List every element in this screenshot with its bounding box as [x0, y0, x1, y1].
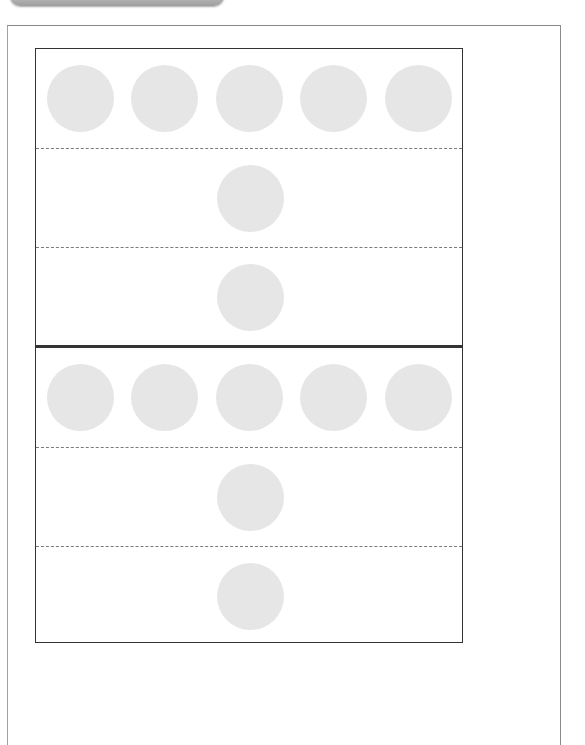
circle-icon — [217, 264, 284, 331]
circle-icon — [47, 65, 114, 132]
circle-icon — [217, 165, 284, 232]
circle-icon — [300, 65, 367, 132]
dot-card-2 — [35, 346, 463, 643]
card-1-row-1 — [36, 49, 462, 148]
circle-icon — [300, 364, 367, 431]
circle-icon — [217, 563, 284, 630]
card-2-row-2 — [36, 447, 462, 547]
circle-icon — [385, 364, 452, 431]
card-2-row-1 — [36, 348, 462, 447]
card-1-row-3 — [36, 247, 462, 346]
circle-icon — [216, 65, 283, 132]
top-tab — [10, 0, 224, 6]
circle-icon — [385, 65, 452, 132]
circle-icon — [131, 65, 198, 132]
circle-icon — [131, 364, 198, 431]
circle-icon — [217, 464, 284, 531]
circle-icon — [216, 364, 283, 431]
circle-icon — [47, 364, 114, 431]
dot-card-1 — [35, 48, 463, 346]
card-2-row-3 — [36, 546, 462, 645]
card-1-row-2 — [36, 148, 462, 248]
